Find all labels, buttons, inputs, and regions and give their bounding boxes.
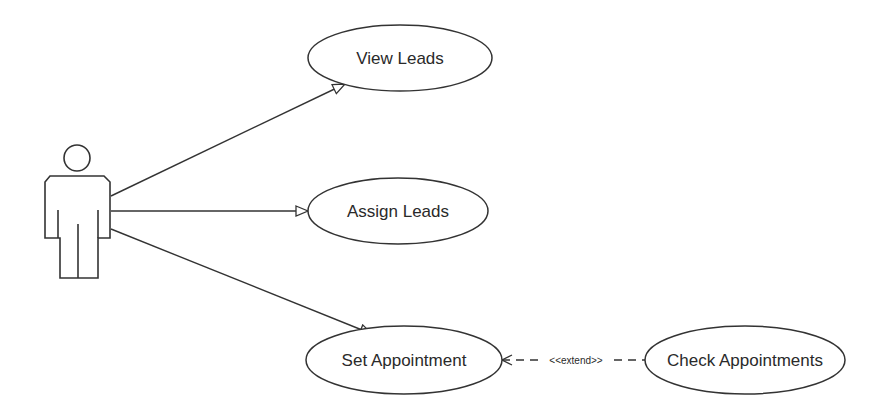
label-assign-leads: Assign Leads: [347, 202, 449, 221]
association-set-appointment: [111, 229, 372, 334]
label-check-appointments: Check Appointments: [667, 351, 823, 370]
label-set-appointment: Set Appointment: [342, 351, 467, 370]
label-view-leads: View Leads: [356, 49, 444, 68]
extend-stereotype-label: <<extend>>: [549, 355, 603, 366]
use-case-diagram: View Leads Assign Leads Set Appointment …: [0, 0, 893, 412]
actor-figure: [45, 145, 110, 278]
association-view-leads: [111, 84, 345, 196]
actor-head: [64, 145, 90, 171]
